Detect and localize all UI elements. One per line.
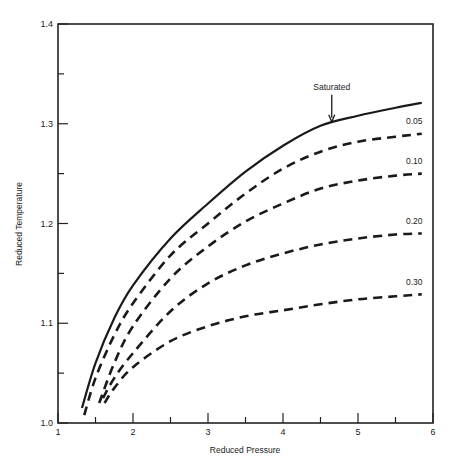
y-tick-label: 1.3 [40,119,53,129]
curve-0-30 [105,294,422,403]
curves [82,103,422,415]
curve-label: 0.20 [406,216,423,226]
y-tick-label: 1.0 [40,418,53,428]
y-tick-label: 1.2 [40,219,53,229]
y-tick-label: 1.4 [40,19,53,29]
curve-label: 0.10 [406,156,423,166]
curve-0-10 [99,174,422,403]
y-axis: 1.01.11.21.31.4 [40,19,68,428]
x-tick-label: 6 [430,427,435,437]
curve-label: 0.30 [406,277,423,287]
chart: 123456 1.01.11.21.31.4 Saturated0.050.10… [0,0,453,467]
x-tick-label: 5 [355,427,360,437]
curve-label: 0.05 [406,116,423,126]
x-tick-label: 2 [130,427,135,437]
curve-saturated [82,103,422,408]
x-tick-label: 4 [280,427,285,437]
curve-0-05 [84,134,422,415]
x-tick-label: 3 [205,427,210,437]
x-axis-title: Reduced Pressure [210,445,281,455]
x-axis: 123456 [55,413,435,437]
y-tick-label: 1.1 [40,318,53,328]
saturated-label: Saturated [313,82,350,92]
plot-frame [58,24,433,423]
x-tick-label: 1 [55,427,60,437]
curve-0-20 [103,233,422,398]
y-axis-title: Reduced Temperature [14,182,24,266]
